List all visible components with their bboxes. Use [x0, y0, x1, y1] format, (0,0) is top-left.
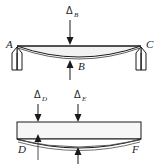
label-a: A [5, 38, 13, 50]
delta-d-symbol: Δ [34, 89, 41, 100]
lower-beam-rect [17, 122, 141, 139]
label-d: D [17, 143, 26, 155]
beam-deflection-figure: Δ B A C [0, 0, 158, 164]
lower-beam-body [17, 122, 141, 139]
label-b: B [78, 60, 85, 72]
delta-e-subscript: E [81, 95, 87, 103]
support-left [12, 47, 22, 70]
label-f: F [131, 143, 139, 155]
diagram-canvas: Δ B A C [0, 0, 158, 164]
delta-b-symbol: Δ [66, 5, 73, 16]
delta-b-subscript: B [74, 11, 79, 19]
label-c: C [146, 38, 154, 50]
delta-e-symbol: Δ [74, 89, 81, 100]
delta-d-subscript: D [41, 95, 47, 103]
support-right [136, 47, 146, 70]
